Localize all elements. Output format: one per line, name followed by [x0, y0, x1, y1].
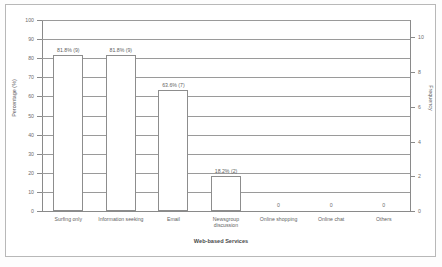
y-axis-right-tick	[410, 72, 415, 73]
gridline	[42, 116, 410, 117]
y-axis-left-tick-label: 20	[28, 170, 34, 176]
gridline	[42, 39, 410, 40]
bar	[106, 55, 136, 211]
y-axis-left-tick	[37, 211, 42, 212]
y-axis-right-tick-label: 10	[418, 34, 424, 40]
x-axis-line	[42, 211, 411, 212]
y-axis-left-tick-label: 60	[28, 93, 34, 99]
y-axis-left-tick-label: 80	[28, 55, 34, 61]
y-axis-left-tick-label: 70	[28, 74, 34, 80]
y-axis-right-tick-label: 0	[418, 208, 421, 214]
y-axis-left-tick-label: 0	[31, 208, 34, 214]
y-axis-left-tick	[37, 192, 42, 193]
y-axis-left-tick-label: 40	[28, 132, 34, 138]
gridline	[42, 20, 410, 21]
bar-value-label: 81.8% (9)	[81, 47, 161, 53]
y-axis-left-tick	[37, 96, 42, 97]
y-axis-right-tick	[410, 211, 415, 212]
y-axis-left-tick-label: 30	[28, 151, 34, 157]
gridline	[42, 135, 410, 136]
y-axis-left-tick	[37, 77, 42, 78]
bar	[211, 176, 241, 211]
y-axis-right-line	[410, 20, 411, 211]
y-axis-left-tick-label: 50	[28, 113, 34, 119]
y-axis-right-tick	[410, 176, 415, 177]
bar-value-label: 63.6% (7)	[133, 82, 213, 88]
y-axis-right-tick	[410, 107, 415, 108]
chart-figure: Percentage (%) Frequency Web-based Servi…	[0, 0, 442, 267]
y-axis-right-tick	[410, 37, 415, 38]
y-axis-right-tick-label: 6	[418, 104, 421, 110]
y-axis-right-tick-label: 4	[418, 139, 421, 145]
y-axis-left-tick	[37, 154, 42, 155]
x-axis-category-label: Online chat	[305, 216, 358, 222]
y-axis-left-tick	[37, 58, 42, 59]
x-axis-category-label: Newsgroup discussion	[200, 216, 253, 229]
x-axis-category-label: Online shopping	[252, 216, 305, 222]
bar	[158, 90, 188, 211]
y-axis-left-title: Percentage (%)	[11, 63, 17, 133]
bar-value-label: 18.2% (2)	[186, 168, 266, 174]
x-axis-category-label: Information seeking	[95, 216, 148, 222]
x-axis-category-label: Others	[357, 216, 410, 222]
y-axis-left-tick-label: 10	[28, 189, 34, 195]
bar	[53, 55, 83, 211]
gridline	[42, 58, 410, 59]
gridline	[42, 96, 410, 97]
y-axis-right-tick-label: 8	[418, 69, 421, 75]
x-axis-category-label: Email	[147, 216, 200, 222]
gridline	[42, 77, 410, 78]
y-axis-right-tick-label: 2	[418, 173, 421, 179]
y-axis-right-tick	[410, 142, 415, 143]
y-axis-left-tick	[37, 173, 42, 174]
y-axis-left-tick-label: 100	[25, 17, 34, 23]
y-axis-left-tick-label: 90	[28, 36, 34, 42]
bar-value-label: 0	[311, 202, 351, 208]
y-axis-left-tick	[37, 116, 42, 117]
y-axis-right-title: Frequency	[428, 63, 434, 133]
x-axis-title: Web-based Services	[0, 238, 442, 244]
x-axis-category-label: Surfing only	[42, 216, 95, 222]
y-axis-left-tick	[37, 39, 42, 40]
bar-value-label: 0	[364, 202, 404, 208]
gridline	[42, 154, 410, 155]
y-axis-left-tick	[37, 135, 42, 136]
bar-value-label: 0	[259, 202, 299, 208]
y-axis-left-tick	[37, 20, 42, 21]
